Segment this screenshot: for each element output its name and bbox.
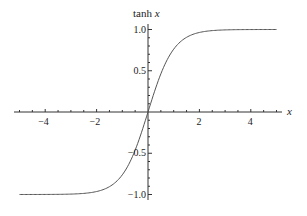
y-tick-label: 1.0 bbox=[134, 25, 147, 35]
x-tick-label: −2 bbox=[90, 117, 101, 127]
y-tick-label: −1.0 bbox=[128, 190, 146, 200]
y-axis-title-var: x bbox=[155, 7, 160, 19]
x-tick-label: −4 bbox=[38, 117, 49, 127]
y-axis-title: tanh x bbox=[133, 8, 160, 19]
x-tick-label: 4 bbox=[248, 117, 253, 127]
tanh-plot bbox=[0, 0, 307, 216]
y-axis-title-fn: tanh bbox=[133, 7, 152, 19]
y-tick-label: 0.5 bbox=[134, 66, 147, 76]
y-tick-label: −0.5 bbox=[128, 148, 146, 158]
x-tick-label: 2 bbox=[196, 117, 201, 127]
x-axis-title: x bbox=[287, 106, 292, 117]
